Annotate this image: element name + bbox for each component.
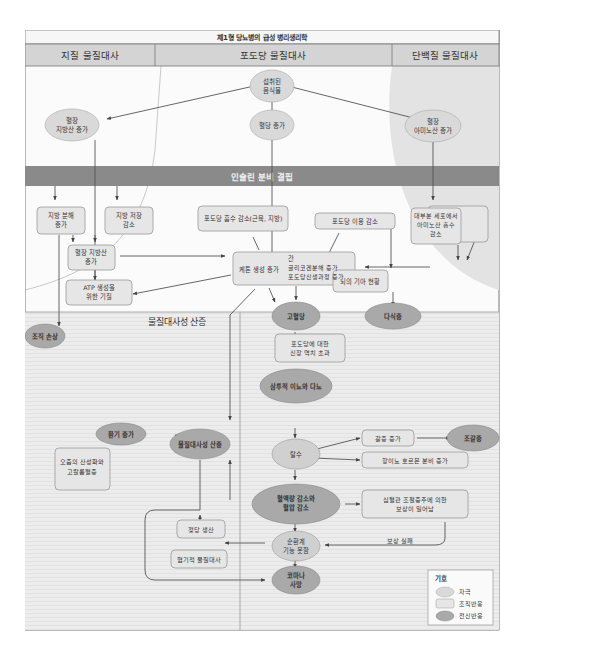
- blood-glucose-node: 혈당 증가: [250, 110, 294, 140]
- svg-text:혐기적 물질대사: 혐기적 물질대사: [177, 556, 221, 564]
- svg-text:조직반응: 조직반응: [459, 600, 483, 608]
- svg-text:포도당 이용 감소: 포도당 이용 감소: [332, 217, 378, 226]
- svg-text:포도당에 대한: 포도당에 대한: [291, 340, 329, 348]
- legend-systemic-swatch: [436, 611, 454, 621]
- svg-text:음식물: 음식물: [263, 86, 281, 95]
- svg-text:오줌의 산성화와: 오줌의 산성화와: [60, 458, 104, 466]
- svg-text:갈증 증가: 갈증 증가: [375, 435, 401, 443]
- compensation-box: [362, 490, 468, 518]
- column-header-protein: 단백질 물질대사: [412, 50, 478, 61]
- svg-text:글리코겐분해 증가: 글리코겐분해 증가: [288, 264, 338, 272]
- legend: 기호 자극 조직반응 전신반응: [428, 570, 493, 625]
- svg-text:환기 증가: 환기 증가: [108, 430, 134, 439]
- svg-text:혈당 증가: 혈당 증가: [259, 121, 285, 130]
- renal-threshold-box: [275, 334, 345, 362]
- svg-text:심혈관 조절중추에 의한: 심혈관 조절중추에 의한: [383, 496, 447, 504]
- region-label-acidosis: 물질대사성 산증: [148, 316, 207, 327]
- svg-text:지방 저장: 지방 저장: [116, 211, 142, 220]
- plasma-fatty-acid-node: 혈장 지방산 증가: [45, 109, 99, 141]
- svg-text:자극: 자극: [459, 588, 471, 596]
- svg-text:조직 손상: 조직 손상: [32, 332, 58, 341]
- svg-text:코마나: 코마나: [287, 571, 305, 580]
- column-header-lipid: 지질 물질대사: [61, 50, 118, 61]
- svg-text:사망: 사망: [290, 580, 302, 589]
- svg-text:순환계: 순환계: [287, 537, 305, 546]
- svg-text:ATP 생성을: ATP 생성을: [83, 283, 114, 291]
- svg-text:증가: 증가: [85, 257, 97, 266]
- svg-text:간: 간: [288, 254, 294, 262]
- svg-text:섭취된: 섭취된: [263, 77, 281, 86]
- svg-text:보상이 일어남: 보상이 일어남: [396, 505, 434, 513]
- svg-text:아미노산 흡수: 아미노산 흡수: [417, 221, 455, 229]
- svg-text:삼투적 이뇨와 다뇨: 삼투적 이뇨와 다뇨: [270, 382, 322, 391]
- svg-text:아미노산 증가: 아미노산 증가: [414, 126, 452, 135]
- svg-text:항이뇨 호르몬 분비 증가: 항이뇨 호르몬 분비 증가: [382, 457, 448, 465]
- svg-text:혈장 지방산: 혈장 지방산: [75, 248, 107, 257]
- svg-text:고혈당: 고혈당: [287, 312, 305, 321]
- svg-text:보상 실패: 보상 실패: [387, 537, 413, 545]
- svg-text:지방산 증가: 지방산 증가: [56, 125, 88, 134]
- svg-text:뇌의 기아 현황: 뇌의 기아 현황: [340, 277, 380, 286]
- svg-text:기능 못함: 기능 못함: [283, 546, 309, 555]
- svg-text:물질대사성 산증: 물질대사성 산증: [178, 440, 222, 449]
- legend-stimulus-swatch: [436, 587, 454, 597]
- ketone-text: 케톤 생성 증가: [239, 265, 279, 274]
- svg-text:감소: 감소: [123, 221, 135, 228]
- svg-text:다식증: 다식증: [384, 312, 402, 321]
- svg-text:감소: 감소: [430, 230, 442, 237]
- circulatory-failure-node: [272, 531, 320, 561]
- food-node: 섭취된 음식물: [250, 70, 294, 102]
- svg-text:혈장: 혈장: [66, 116, 78, 125]
- svg-text:기호: 기호: [435, 574, 447, 583]
- legend-tissue-swatch: [436, 599, 454, 608]
- svg-text:대부분 세포에서: 대부분 세포에서: [414, 212, 458, 220]
- svg-text:포도당 흡수 감소(근육, 지방): 포도당 흡수 감소(근육, 지방): [204, 214, 283, 223]
- svg-text:고칼륨혈증: 고칼륨혈증: [67, 468, 97, 475]
- svg-text:젖당 생산: 젖당 생산: [188, 526, 214, 534]
- plasma-amino-acid-node: 혈장 아미노산 증가: [405, 110, 461, 142]
- svg-text:탈수: 탈수: [290, 451, 302, 459]
- banner-text: 인슐린 분비 결핍: [231, 172, 293, 182]
- svg-text:증가: 증가: [55, 220, 67, 229]
- svg-text:신장 역치 초과: 신장 역치 초과: [290, 349, 330, 357]
- svg-text:위한 기질: 위한 기질: [86, 292, 112, 301]
- svg-text:혈압 감소: 혈압 감소: [283, 503, 309, 512]
- pathophysiology-diagram: 제1형 당뇨병의 급성 병리생리학 지질 물질대사 포도당 물질대사 단백질 물…: [25, 30, 500, 631]
- svg-text:지방 분해: 지방 분해: [48, 211, 74, 220]
- svg-text:조갈증: 조갈증: [464, 434, 482, 443]
- svg-text:포도당신생과정 증가: 포도당신생과정 증가: [288, 273, 344, 281]
- column-header-glucose: 포도당 물질대사: [240, 50, 306, 61]
- svg-text:혈장: 혈장: [427, 117, 439, 126]
- svg-text:전신반응: 전신반응: [459, 612, 483, 619]
- coma-node: [272, 566, 320, 594]
- svg-text:혈액량 감소와: 혈액량 감소와: [277, 494, 315, 503]
- diagram-title: 제1형 당뇨병의 급성 병리생리학: [217, 33, 308, 42]
